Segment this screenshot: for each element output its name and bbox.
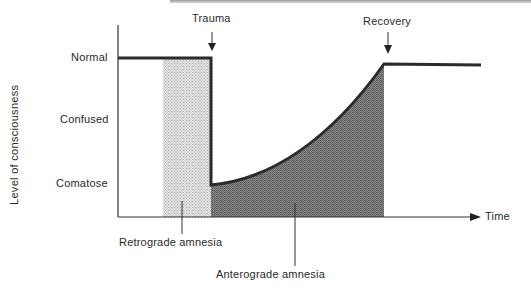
recovery-label: Recovery: [363, 15, 411, 27]
anterograde-amnesia-region: [211, 64, 384, 217]
level-comatose: Comatose: [56, 177, 108, 189]
recovery-arrow-icon: [384, 45, 392, 54]
anterograde-amnesia-label: Anterograde amnesia: [216, 268, 325, 280]
trauma-label: Trauma: [192, 12, 231, 24]
x-axis-label: Time: [485, 210, 510, 222]
amnesia-diagram: [0, 0, 531, 293]
retrograde-amnesia-region: [163, 59, 211, 217]
level-normal: Normal: [71, 51, 108, 63]
x-axis-arrow-icon: [470, 213, 481, 221]
trauma-arrow-icon: [208, 43, 216, 51]
level-confused: Confused: [60, 113, 109, 125]
y-axis-label: Level of consciousness: [8, 85, 20, 205]
retrograde-amnesia-label: Retrograde amnesia: [119, 236, 222, 248]
